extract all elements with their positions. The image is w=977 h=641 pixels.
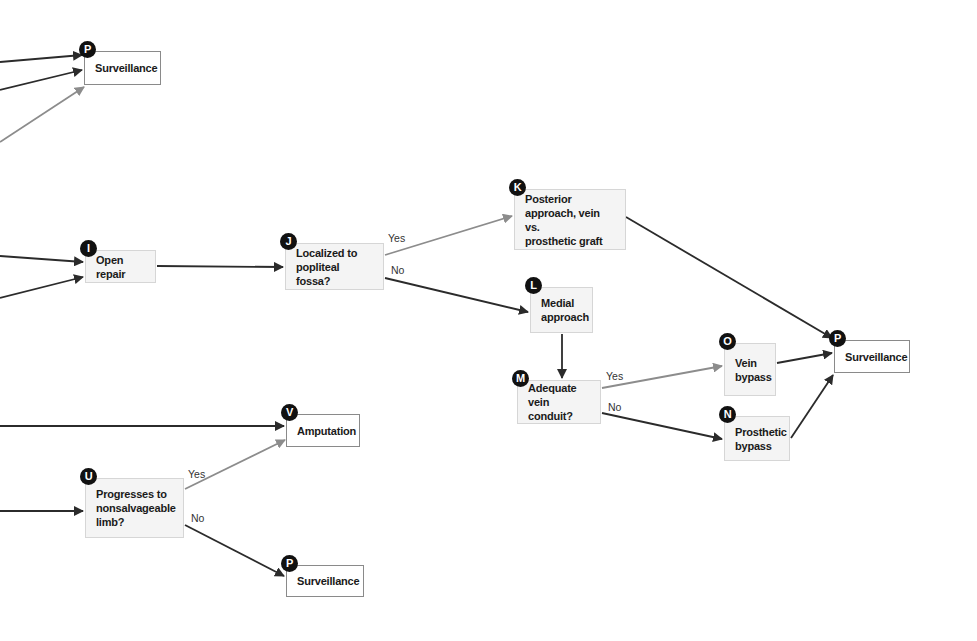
arrow-connector xyxy=(185,440,285,489)
step-badge-icon: I xyxy=(80,240,97,257)
step-badge-icon: P xyxy=(829,330,846,347)
node-label: Adequate vein conduit? xyxy=(528,381,590,423)
step-badge-icon: O xyxy=(719,333,736,350)
arrow-connector xyxy=(626,217,832,338)
node-p-bottom: PSurveillance xyxy=(286,565,364,597)
node-p-right: PSurveillance xyxy=(834,340,910,373)
node-label: Medial approach xyxy=(541,296,589,324)
node-label: Amputation xyxy=(297,424,356,438)
arrow-connector xyxy=(0,256,83,262)
node-n: NProsthetic bypass xyxy=(724,416,790,461)
step-badge-icon: V xyxy=(281,404,298,421)
node-i: IOpen repair xyxy=(85,250,156,283)
edge-label-no: No xyxy=(391,264,404,276)
step-badge-icon: J xyxy=(280,233,297,250)
step-badge-icon: M xyxy=(512,370,529,387)
node-label: Surveillance xyxy=(95,61,157,75)
step-badge-icon: P xyxy=(281,555,298,572)
node-m: MAdequate vein conduit? xyxy=(517,380,601,424)
arrow-connector xyxy=(385,278,528,312)
arrow-connector xyxy=(0,70,82,90)
step-badge-icon: N xyxy=(719,406,736,423)
node-l: LMedial approach xyxy=(530,287,593,333)
arrow-connector xyxy=(185,525,284,576)
arrow-connector xyxy=(602,413,722,439)
edge-label-no: No xyxy=(608,401,621,413)
node-k: KPosterior approach, vein vs. prosthetic… xyxy=(514,189,626,250)
step-badge-icon: K xyxy=(509,179,526,196)
step-badge-icon: L xyxy=(525,277,542,294)
node-label: Surveillance xyxy=(845,350,907,364)
step-badge-icon: P xyxy=(79,41,96,58)
arrow-connector xyxy=(791,375,833,438)
arrow-connector xyxy=(0,87,84,142)
edge-label-yes: Yes xyxy=(388,232,405,244)
edge-label-yes: Yes xyxy=(606,370,623,382)
arrow-connector xyxy=(777,353,832,363)
arrow-connector xyxy=(0,277,83,298)
node-p-top: PSurveillance xyxy=(84,51,161,85)
node-u: UProgresses to nonsalvageable limb? xyxy=(85,478,184,538)
edge-label-no: No xyxy=(191,512,204,524)
node-o: OVein bypass xyxy=(724,343,776,396)
node-label: Progresses to nonsalvageable limb? xyxy=(96,487,176,529)
node-label: Localized to popliteal fossa? xyxy=(296,246,373,288)
node-label: Prosthetic bypass xyxy=(735,425,787,453)
node-v: VAmputation xyxy=(286,414,360,447)
edge-label-yes: Yes xyxy=(188,468,205,480)
arrow-connector xyxy=(157,266,283,267)
node-label: Vein bypass xyxy=(735,356,772,384)
node-j: JLocalized to popliteal fossa? xyxy=(285,243,384,290)
step-badge-icon: U xyxy=(80,468,97,485)
node-label: Posterior approach, vein vs. prosthetic … xyxy=(525,192,615,248)
node-label: Open repair xyxy=(96,253,145,281)
connector-layer xyxy=(0,0,977,641)
arrow-connector xyxy=(0,55,82,62)
node-label: Surveillance xyxy=(297,574,359,588)
